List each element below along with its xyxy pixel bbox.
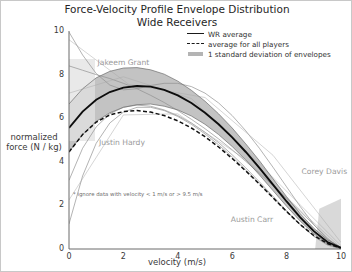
annotation-corey-davis: Corey Davis [302, 167, 348, 176]
legend-label: WR average [208, 30, 252, 39]
y-tick-label: 4 [42, 157, 64, 166]
legend-item-wr-average: WR average [187, 29, 331, 39]
all-players-average-line [69, 111, 341, 249]
y-tick-label: 2 [42, 200, 64, 209]
x-tick-label: 10 [330, 252, 352, 261]
x-tick-label: 2 [112, 252, 134, 261]
annotation-jakeem-grant: Jakeem Grant [98, 58, 150, 67]
y-tick-label: 10 [42, 26, 64, 35]
x-tick-label: 4 [167, 252, 189, 261]
dashed-line-icon [187, 39, 204, 49]
chart-legend: WR average average for all players 1 sta… [187, 29, 331, 59]
chart-footnote: * ignore data with velocity < 1 m/s or >… [73, 191, 203, 197]
legend-label: 1 standard deviation of envelopes [208, 50, 331, 59]
legend-label: average for all players [208, 40, 289, 49]
y-tick-label: 8 [42, 70, 64, 79]
y-tick-label: 6 [42, 113, 64, 122]
x-tick-label: 8 [276, 252, 298, 261]
legend-item-all-players-average: average for all players [187, 39, 331, 49]
band-swatch-icon [187, 49, 204, 59]
annotation-justin-hardy: Justin Hardy [99, 138, 145, 147]
x-tick-label: 0 [58, 252, 80, 261]
legend-item-std-band: 1 standard deviation of envelopes [187, 49, 331, 59]
std-band-lower-edge [69, 104, 341, 249]
solid-line-icon [187, 29, 204, 39]
chart-figure: Force-Velocity Profile Envelope Distribu… [0, 0, 352, 272]
player-envelope-austin-carr [69, 105, 341, 249]
x-tick-label: 6 [221, 252, 243, 261]
y-axis-title: normalized force (N / kg) [3, 132, 65, 152]
annotation-austin-carr: Austin Carr [231, 215, 273, 224]
